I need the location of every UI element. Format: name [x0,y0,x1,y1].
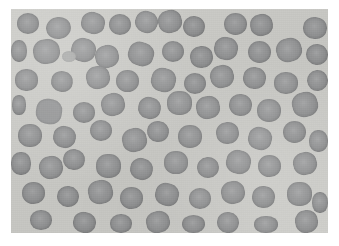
red-blood-cell [120,187,143,209]
red-blood-cell [305,43,328,66]
red-blood-cell [251,185,276,209]
red-blood-cell [132,9,161,36]
red-blood-cell [302,15,328,40]
red-blood-cell [96,154,121,178]
red-blood-cell [49,69,75,94]
red-blood-cell [194,94,221,120]
red-blood-cell [56,185,81,209]
red-blood-cell [152,180,181,208]
red-blood-cell [248,12,274,38]
red-blood-cell [79,10,107,37]
red-blood-cell [110,214,132,233]
red-blood-cell [219,179,246,205]
red-blood-cell [273,35,305,65]
red-blood-cell [11,40,27,62]
red-blood-cell [182,15,206,38]
red-blood-cell [120,126,149,154]
red-blood-cell [258,155,281,177]
blood-smear-micrograph [11,9,328,233]
red-blood-cell [257,99,281,122]
red-blood-cell [12,95,26,115]
red-blood-cell [245,124,274,153]
red-blood-cell [128,156,155,183]
red-blood-cell [196,156,220,180]
red-blood-cell [37,154,65,181]
red-blood-cell [18,124,42,147]
red-blood-cell [242,66,268,91]
red-blood-cell [116,70,139,92]
red-blood-cell [228,93,253,117]
red-blood-cell [189,188,211,209]
red-blood-cell [224,13,247,35]
red-blood-cell [86,178,115,207]
red-blood-cell [208,62,237,90]
red-blood-cell [287,182,312,206]
red-blood-cell [167,91,192,115]
red-blood-cell [11,152,31,175]
red-blood-cell [51,124,78,150]
red-blood-cell [254,216,278,233]
red-blood-cell [144,209,172,233]
red-blood-cell [306,69,328,92]
red-blood-cell [17,13,39,34]
red-blood-cell [15,69,38,91]
red-blood-cell [189,45,215,70]
red-blood-cell [312,192,328,213]
red-blood-cell [164,151,188,174]
red-blood-cell [182,215,205,233]
red-blood-cell [289,89,321,120]
red-blood-cell [224,148,253,176]
red-blood-cell [32,38,61,66]
red-blood-cell [283,121,306,143]
red-blood-cell [274,72,298,94]
red-blood-cell [162,41,184,62]
red-blood-cell [248,41,271,63]
red-blood-cell [178,125,202,148]
red-blood-cell [61,147,86,171]
red-blood-cell [22,182,45,204]
red-blood-cell [73,102,95,123]
platelet-cell [62,51,76,62]
red-blood-cell [99,91,127,118]
red-blood-cell [125,39,157,70]
red-blood-cell [146,120,170,144]
blood-cell-layer [11,9,328,233]
red-blood-cell [291,150,320,178]
red-blood-cell [136,95,164,122]
red-blood-cell [309,130,328,152]
echinocyte-cell [34,97,64,126]
red-blood-cell [156,9,185,36]
red-blood-cell [216,211,240,233]
red-blood-cell [30,210,52,230]
red-blood-cell [212,35,240,62]
red-blood-cell [184,73,206,94]
red-blood-cell [215,121,241,146]
red-blood-cell [45,15,73,40]
screenshot-root [0,0,339,246]
red-blood-cell [71,210,97,233]
red-blood-cell [90,120,112,141]
red-blood-cell [109,14,131,35]
